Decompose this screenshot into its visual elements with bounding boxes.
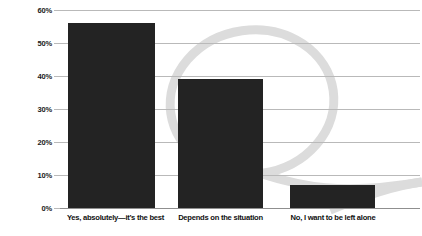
x-label-no-left-alone: No, I want to be left alone — [272, 212, 394, 223]
x-axis-labels: Yes, absolutely—it’s the best Depends on… — [60, 212, 422, 234]
bar-yes-absolutely — [68, 23, 155, 208]
bar-chart: 60% 50% 40% 30% 20% 10% 0% Yes, absolute… — [0, 0, 422, 236]
y-tick-mark — [54, 208, 60, 209]
y-tick-label: 40% — [0, 72, 52, 81]
y-tick-label: 0% — [0, 204, 52, 213]
y-tick-label: 60% — [0, 6, 52, 15]
y-tick-mark — [54, 43, 60, 44]
y-tick-mark — [54, 175, 60, 176]
bar-depends-on-situation — [178, 79, 263, 208]
y-tick-label: 20% — [0, 138, 52, 147]
y-tick-label: 30% — [0, 105, 52, 114]
y-tick-mark — [54, 142, 60, 143]
y-tick-label: 10% — [0, 171, 52, 180]
x-label-depends-on-situation: Depends on the situation — [159, 212, 282, 223]
gridline-60 — [60, 10, 420, 11]
y-tick-mark — [54, 76, 60, 77]
y-tick-label: 50% — [0, 39, 52, 48]
y-tick-mark — [54, 109, 60, 110]
y-tick-mark — [54, 10, 60, 11]
plot-area — [60, 10, 420, 208]
gridline-baseline-0 — [60, 208, 420, 209]
bar-no-left-alone — [290, 185, 375, 208]
